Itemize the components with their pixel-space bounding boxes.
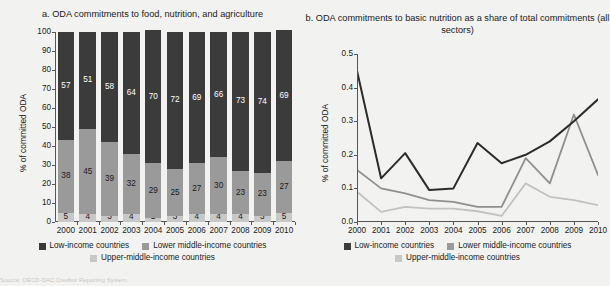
bar-segment[interactable]: 58: [101, 32, 118, 142]
panel-a-x-tick-mark: [230, 222, 231, 225]
bar-segment[interactable]: 45: [79, 129, 96, 215]
panel-a-x-tick-label: 2009: [253, 227, 271, 235]
panel-a-y-tick-label: 40: [42, 142, 51, 150]
legend-item-lower-middle-income[interactable]: Lower middle-income countries: [447, 240, 571, 252]
legend-swatch-upper-middle-income: [395, 255, 402, 262]
bar-value-label: 72: [167, 96, 184, 104]
legend-row: Low-income countriesLower middle-income …: [305, 240, 610, 252]
bar-segment[interactable]: 73: [232, 32, 249, 171]
bar-segment[interactable]: 25: [167, 169, 184, 217]
bar-value-label: 38: [58, 172, 75, 180]
panel-b-x-tick-mark: [478, 222, 479, 225]
bar-group[interactable]: 32374: [254, 32, 271, 222]
bar-group[interactable]: 22970: [145, 32, 162, 222]
bar-value-label: 27: [189, 185, 206, 193]
bar-segment[interactable]: 4: [79, 214, 96, 222]
panel-b-y-axis-label: % of committed ODA: [320, 104, 330, 182]
bar-value-label: 30: [210, 182, 227, 190]
panel-b-x-tick-mark: [550, 222, 551, 225]
bar-value-label: 70: [145, 93, 162, 101]
panel-b-y-tick-label: 0.1: [342, 184, 353, 192]
panel-b-x-tick-label: 2002: [396, 227, 414, 235]
bar-segment[interactable]: 27: [276, 161, 293, 212]
panel-b-legend: Low-income countriesLower middle-income …: [305, 240, 610, 264]
bar-segment[interactable]: 4: [189, 214, 206, 222]
bar-value-label: 74: [254, 98, 271, 106]
panel-b-x-tick-mark: [429, 222, 430, 225]
bar-segment[interactable]: 5: [58, 213, 75, 223]
panel-a-y-tick-mark: [52, 146, 55, 147]
panel-a-x-tick-label: 2003: [122, 227, 140, 235]
bar-segment[interactable]: 29: [145, 163, 162, 218]
figure-container: a. ODA commitments to food, nutrition, a…: [0, 0, 610, 286]
panel-a-y-tick-label: 70: [42, 85, 51, 93]
bar-segment[interactable]: 4: [210, 214, 227, 222]
bar-segment[interactable]: 3: [254, 216, 271, 222]
bar-segment[interactable]: 23: [254, 173, 271, 217]
legend-item-upper-middle-income[interactable]: Upper-middle-income countries: [395, 252, 520, 264]
bar-group[interactable]: 43066: [210, 32, 227, 222]
bar-segment[interactable]: 70: [145, 30, 162, 163]
legend-swatch-lower-middle-income: [447, 243, 454, 250]
panel-b-line-lower-middle-income-countries: [357, 114, 598, 206]
bar-segment[interactable]: 66: [210, 32, 227, 157]
bar-segment[interactable]: 69: [276, 30, 293, 161]
bar-segment[interactable]: 23: [232, 171, 249, 215]
panel-a-x-tick-mark: [99, 222, 100, 225]
bar-value-label: 5: [276, 213, 293, 221]
legend-item-upper-middle-income[interactable]: Upper-middle-income countries: [90, 252, 215, 264]
bar-segment[interactable]: 4: [123, 214, 140, 222]
bar-segment[interactable]: 27: [189, 163, 206, 214]
bar-group[interactable]: 53857: [58, 32, 75, 222]
bar-segment[interactable]: 38: [58, 140, 75, 212]
panel-b-y-tick-mark: [354, 88, 357, 89]
panel-a-x-tick-label: 2000: [57, 227, 75, 235]
panel-a-x-tick-label: 2002: [100, 227, 118, 235]
bar-segment[interactable]: 3: [101, 216, 118, 222]
panel-a-x-tick-label: 2008: [231, 227, 249, 235]
bar-group[interactable]: 33958: [101, 32, 118, 222]
bar-segment[interactable]: 5: [276, 213, 293, 223]
bar-value-label: 64: [123, 89, 140, 97]
bar-value-label: 45: [79, 168, 96, 176]
bar-segment[interactable]: 64: [123, 32, 140, 154]
panel-a-y-tick-mark: [52, 222, 55, 223]
legend-item-lower-middle-income[interactable]: Lower middle-income countries: [142, 240, 266, 252]
panel-b-x-tick-label: 2003: [420, 227, 438, 235]
panel-b-y-tick-mark: [354, 54, 357, 55]
panel-a-y-tick-label: 60: [42, 104, 51, 112]
panel-a-plot-area: 0102030405060708090100538572000445512001…: [55, 32, 295, 222]
panel-b-x-tick-label: 2009: [565, 227, 583, 235]
bar-segment[interactable]: 4: [232, 214, 249, 222]
bar-segment[interactable]: 69: [189, 32, 206, 163]
legend-item-low-income[interactable]: Low-income countries: [344, 240, 435, 252]
bar-group[interactable]: 42373: [232, 32, 249, 222]
panel-a-y-tick-mark: [52, 165, 55, 166]
bar-segment[interactable]: 32: [123, 154, 140, 215]
panel-a-y-axis-line: [55, 32, 56, 222]
bar-segment[interactable]: 2: [145, 218, 162, 222]
panel-b-x-tick-label: 2001: [372, 227, 390, 235]
legend-label: Low-income countries: [50, 240, 130, 252]
bar-group[interactable]: 42769: [189, 32, 206, 222]
bar-group[interactable]: 44551: [79, 32, 96, 222]
bar-segment[interactable]: 74: [254, 32, 271, 173]
bar-value-label: 23: [254, 190, 271, 198]
bar-group[interactable]: 43264: [123, 32, 140, 222]
bar-segment[interactable]: 30: [210, 157, 227, 214]
bar-segment[interactable]: 57: [58, 32, 75, 140]
panel-a-y-axis-label: % of committed ODA: [18, 94, 28, 172]
bar-segment[interactable]: 39: [101, 142, 118, 216]
bar-segment[interactable]: 72: [167, 32, 184, 169]
legend-item-low-income[interactable]: Low-income countries: [39, 240, 130, 252]
bar-segment[interactable]: 3: [167, 216, 184, 222]
legend-label: Upper-middle-income countries: [101, 252, 215, 264]
panel-a-x-tick-label: 2001: [79, 227, 97, 235]
panel-a-y-tick-label: 10: [42, 199, 51, 207]
panel-b-x-tick-mark: [574, 222, 575, 225]
bar-segment[interactable]: 51: [79, 32, 96, 129]
panel-a-title: a. ODA commitments to food, nutrition, a…: [0, 9, 305, 21]
bar-group[interactable]: 52769: [276, 32, 293, 222]
bar-group[interactable]: 32572: [167, 32, 184, 222]
bar-value-label: 29: [145, 187, 162, 195]
